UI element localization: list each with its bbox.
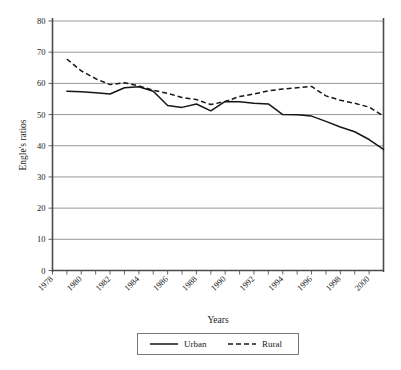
x-tick-label: 1990 (209, 274, 228, 293)
x-tick-label: 1982 (93, 274, 112, 293)
x-tick-label: 1996 (295, 274, 314, 293)
x-axis-title: Years (207, 315, 229, 325)
x-tick-label: 1994 (266, 273, 286, 293)
y-tick-label: 70 (37, 47, 46, 57)
x-tick-label: 1988 (180, 274, 199, 293)
x-tick-label-group: 1978198019821984198619881990199219941996… (36, 273, 372, 293)
x-tick-label: 1984 (122, 273, 142, 293)
x-tick-label: 1992 (237, 274, 256, 293)
y-tick-label-group: 01020304050607080 (37, 16, 46, 276)
gridline-group (53, 21, 384, 239)
x-tick-label: 1980 (65, 274, 84, 293)
chart-figure: 01020304050607080 1978198019821984198619… (0, 0, 401, 370)
x-tick-label: 1986 (151, 274, 170, 293)
legend-label-urban: Urban (184, 339, 207, 349)
x-tick-label: 1998 (324, 274, 343, 293)
y-tick-label: 0 (41, 266, 45, 276)
y-tick-label: 10 (37, 234, 46, 244)
y-tick-label: 60 (37, 78, 46, 88)
series-line-urban (67, 87, 384, 150)
y-tick-label: 40 (37, 141, 46, 151)
y-tick-label: 80 (37, 16, 46, 26)
series-line-rural (67, 59, 384, 116)
y-axis-title: Engle's ratios (18, 119, 28, 170)
x-tick-label: 1978 (36, 274, 55, 293)
y-tick-label: 20 (37, 203, 46, 213)
legend-label-rural: Rural (262, 339, 282, 349)
y-tick-label: 30 (37, 172, 46, 182)
y-tick-label: 50 (37, 110, 46, 120)
line-chart: 01020304050607080 1978198019821984198619… (0, 0, 401, 370)
x-tick-label: 2000 (352, 274, 371, 293)
legend: Urban Rural (138, 334, 299, 355)
